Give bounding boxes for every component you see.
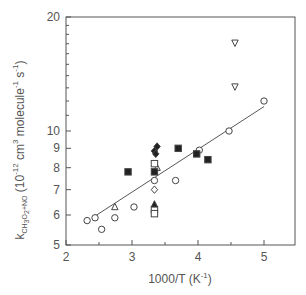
y-tick-label: 5 <box>53 238 60 252</box>
open-square-marker <box>151 210 157 216</box>
y-tick-label: 20 <box>47 10 61 24</box>
open-square-marker <box>151 160 157 166</box>
x-tick-label: 2 <box>63 250 70 264</box>
filled-square-marker <box>205 156 211 162</box>
open-circle-marker <box>98 226 104 232</box>
open-triangle-down-marker <box>232 40 238 46</box>
scatter-chart: 2345567891020 1000/T (K-1) kCH3O2+NO (10… <box>0 0 306 295</box>
filled-square-marker <box>175 145 181 151</box>
fit-line <box>92 107 264 218</box>
open-circle-marker <box>172 177 178 183</box>
open-circle-marker <box>261 98 267 104</box>
x-tick-label: 4 <box>195 250 202 264</box>
filled-square-marker <box>125 169 131 175</box>
open-triangle-down-marker <box>232 84 238 90</box>
y-tick-label: 6 <box>53 208 60 222</box>
open-diamond-marker <box>151 186 157 193</box>
regression-line <box>92 107 264 218</box>
open-circle-marker <box>92 215 98 221</box>
open-circle-marker <box>84 217 90 223</box>
axis-ticks: 2345567891020 <box>47 10 268 264</box>
open-circle-marker <box>112 215 118 221</box>
open-circle-marker <box>131 204 137 210</box>
plot-frame <box>66 17 295 245</box>
axes-box <box>66 17 295 245</box>
y-tick-label: 9 <box>53 141 60 155</box>
x-tick-label: 5 <box>261 250 268 264</box>
open-circle-marker <box>151 177 157 183</box>
y-tick-label: 7 <box>53 183 60 197</box>
x-tick-label: 3 <box>129 250 136 264</box>
y-tick-label: 10 <box>47 124 61 138</box>
x-axis-title: 1000/T (K-1) <box>148 271 212 286</box>
data-points <box>84 40 267 232</box>
filled-triangle-up-marker <box>151 201 157 207</box>
y-tick-label: 8 <box>53 161 60 175</box>
filled-square-marker <box>193 151 199 157</box>
filled-square-marker <box>151 169 157 175</box>
y-axis-title: kCH3O2+NO (10-12 cm3 molecule-1 s-1) <box>11 61 30 240</box>
open-circle-marker <box>226 128 232 134</box>
